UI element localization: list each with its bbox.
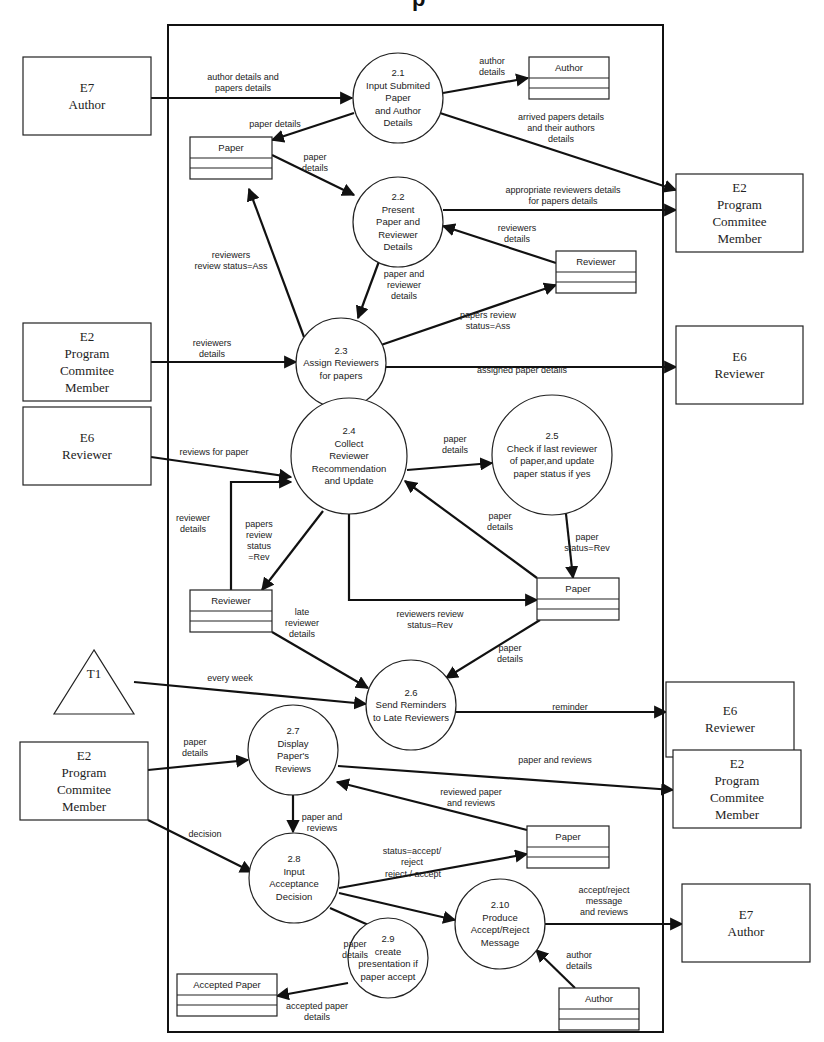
- timer-t1[interactable]: T1: [54, 650, 134, 714]
- process-name-line: Decision: [276, 891, 312, 902]
- process-name-line: Paper: [385, 92, 410, 103]
- data-flow-diagram: p 2.1Input SubmitedPaperand AuthorDetail…: [0, 0, 824, 1042]
- flow-label-line: paper: [443, 434, 466, 444]
- entity-code: E6: [723, 703, 738, 718]
- external-entity-e6[interactable]: E6Reviewer: [676, 326, 803, 404]
- process-2-2[interactable]: 2.2PresentPaper andReviewerDetails: [353, 177, 443, 267]
- process-name-line: Input: [283, 866, 304, 877]
- flow-label: paperdetails: [342, 939, 369, 960]
- flow-label: author details andpapers details: [207, 72, 279, 93]
- data-store-reviewer-mid[interactable]: Reviewer: [190, 590, 272, 632]
- process-number: 2.8: [287, 853, 300, 864]
- flow-label: paperdetails: [302, 152, 329, 173]
- flow-label-line: reviewers: [212, 250, 251, 260]
- store-label: Reviewer: [211, 595, 251, 606]
- flow-label: reviewerdetails: [176, 513, 210, 534]
- external-entity-e2[interactable]: E2ProgramCommiteeMember: [673, 750, 801, 828]
- external-entity-e6[interactable]: E6Reviewer: [666, 682, 794, 757]
- flow-label: paperdetails: [497, 643, 524, 664]
- flow-label: paper and reviews: [518, 755, 592, 765]
- store-label: Accepted Paper: [193, 979, 261, 990]
- flow-label-line: paper: [575, 532, 598, 542]
- flow-label-line: details: [504, 234, 531, 244]
- data-store-accepted-paper[interactable]: Accepted Paper: [177, 974, 277, 1016]
- flow-label-line: status: [247, 541, 272, 551]
- process-name-line: Details: [383, 117, 412, 128]
- flow-label-line: details: [442, 445, 469, 455]
- flow-label: papers reviewstatus=Ass: [460, 310, 517, 331]
- flow-label-line: message: [586, 896, 623, 906]
- data-store-paper-bottom[interactable]: Paper: [527, 826, 609, 868]
- process-number: 2.3: [334, 345, 347, 356]
- flow-label: reviewers reviewstatus=Rev: [396, 609, 464, 630]
- flow-label-line: status=accept/: [383, 846, 442, 856]
- flow-label: accept/rejectmessageand reviews: [578, 885, 630, 917]
- entity-code: E7: [80, 80, 95, 95]
- flow-label-line: =Rev: [248, 552, 270, 562]
- flow-label-line: reviewed paper: [440, 787, 502, 797]
- flow-label-line: every week: [207, 673, 253, 683]
- flow-label-line: details: [497, 654, 524, 664]
- flow-label-line: details: [566, 961, 593, 971]
- flow-label-line: for papers details: [528, 196, 598, 206]
- data-store-author-top[interactable]: Author: [529, 57, 609, 99]
- process-name-line: Reviewer: [378, 229, 418, 240]
- flow-arrow: [443, 78, 528, 93]
- flow-label-line: reviews: [307, 823, 338, 833]
- external-entity-e2[interactable]: E2ProgramCommiteeMember: [23, 323, 151, 401]
- flow-label: assigned paper details: [477, 365, 568, 375]
- process-2-7[interactable]: 2.7DisplayPaper'sReviews: [248, 705, 338, 795]
- data-store-author-bottom[interactable]: Author: [559, 988, 639, 1030]
- process-name-line: Input Submited: [366, 80, 430, 91]
- external-entity-e6[interactable]: E6Reviewer: [23, 407, 151, 485]
- process-name-line: Produce: [482, 912, 517, 923]
- flow-label-line: details: [304, 1012, 331, 1022]
- process-2-6[interactable]: 2.6Send Remindersto Late Reviewers: [366, 660, 456, 750]
- external-entity-e7[interactable]: E7Author: [682, 884, 810, 962]
- process-name-line: of paper,and update: [510, 455, 595, 466]
- flow-label-line: details: [199, 349, 226, 359]
- flow-label-line: review: [246, 530, 273, 540]
- flow-arrow: [446, 620, 540, 678]
- process-2-3[interactable]: 2.3Assign Reviewersfor papers: [296, 318, 386, 408]
- store-label: Paper: [555, 831, 580, 842]
- flow-label-line: late: [295, 607, 310, 617]
- entity-name-line: Member: [715, 807, 760, 822]
- flow-label: reviewersreview status=Ass: [195, 250, 268, 271]
- process-number: 2.4: [342, 425, 355, 436]
- flow-label-line: and reviews: [580, 907, 629, 917]
- entity-name-line: Commitee: [57, 782, 111, 797]
- process-2-1[interactable]: 2.1Input SubmitedPaperand AuthorDetails: [353, 53, 443, 143]
- external-entity-e2[interactable]: E2ProgramCommiteeMember: [20, 742, 148, 820]
- data-store-reviewer-top[interactable]: Reviewer: [556, 251, 636, 293]
- flow-label-line: assigned paper details: [477, 365, 568, 375]
- entity-name-line: Reviewer: [715, 366, 765, 381]
- flow-label: paperdetails: [487, 511, 514, 532]
- flow-label: paper details: [249, 119, 301, 129]
- flow-arrow: [272, 632, 368, 688]
- flow-label-line: details: [302, 163, 329, 173]
- flow-label: reviewersdetails: [193, 338, 232, 359]
- process-2-8[interactable]: 2.8InputAcceptanceDecision: [249, 833, 339, 923]
- store-label: Author: [555, 62, 583, 73]
- process-name-line: Assign Reviewers: [303, 357, 379, 368]
- process-name-line: Reviewer: [329, 450, 369, 461]
- process-name-line: Acceptance: [269, 878, 319, 889]
- flow-label-line: paper: [498, 643, 521, 653]
- entity-code: E2: [80, 329, 94, 344]
- entity-name-line: Program: [65, 346, 110, 361]
- process-number: 2.2: [391, 191, 404, 202]
- flow-arrow: [338, 766, 673, 790]
- flow-label-line: status=Rev: [407, 620, 453, 630]
- process-2-4[interactable]: 2.4CollectReviewerRecommendationand Upda…: [291, 398, 407, 514]
- external-entity-e2[interactable]: E2ProgramCommiteeMember: [676, 174, 803, 252]
- process-2-10[interactable]: 2.10ProduceAccept/RejectMessage: [455, 879, 545, 969]
- data-store-paper-top[interactable]: Paper: [190, 137, 272, 179]
- process-name-line: Reviews: [275, 763, 311, 774]
- data-store-paper-mid[interactable]: Paper: [537, 578, 619, 620]
- flow-label-line: details: [342, 950, 369, 960]
- flow-arrow: [407, 463, 492, 470]
- external-entity-e7[interactable]: E7Author: [23, 57, 151, 135]
- process-2-5[interactable]: 2.5Check if last reviewerof paper,and up…: [492, 395, 612, 515]
- store-label: Paper: [565, 583, 590, 594]
